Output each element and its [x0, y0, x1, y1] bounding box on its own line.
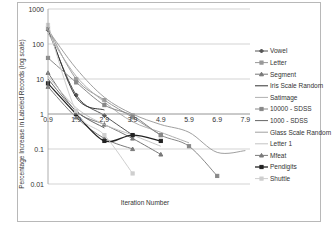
- legend-marker-icon: [260, 107, 263, 110]
- x-tick-label: 0.9: [43, 116, 53, 123]
- data-point-marker: [216, 174, 219, 177]
- legend-label: 10000 - SDSS: [270, 105, 312, 112]
- legend-marker-icon: [260, 177, 263, 180]
- legend-item: Vowel: [255, 47, 288, 54]
- legend-item: Satimage: [255, 94, 298, 102]
- legend-item: Pendigits: [255, 163, 297, 171]
- x-tick-label: 4.9: [156, 116, 166, 123]
- legend-label: Shuttle: [270, 175, 291, 182]
- x-axis-title: Iteration Number: [121, 199, 170, 206]
- legend-label: Letter 1: [270, 140, 292, 147]
- legend-label: Glass Scale Random: [270, 129, 331, 136]
- legend-item: 1000 - SDSS: [255, 117, 309, 124]
- legend-item: Segment: [255, 71, 296, 79]
- series-glass-scale-random: [48, 30, 245, 153]
- legend-label: Letter: [270, 59, 287, 66]
- data-point-marker: [131, 133, 134, 136]
- line-chart: 10001001010.10.010.91.92.93.94.95.96.97.…: [0, 0, 335, 237]
- legend-item: Letter: [255, 59, 287, 66]
- data-point-marker: [75, 110, 78, 113]
- x-tick-label: 7.9: [241, 116, 251, 123]
- data-point-marker: [159, 133, 162, 136]
- legend-marker-icon: [260, 72, 264, 76]
- legend-label: 1000 - SDSS: [270, 117, 309, 124]
- y-tick-label: 100: [32, 41, 44, 48]
- data-point-marker: [187, 145, 190, 148]
- legend-label: Satimage: [270, 94, 298, 102]
- data-point-marker: [131, 172, 134, 175]
- legend-marker-icon: [260, 49, 264, 53]
- series-line: [48, 30, 245, 153]
- data-point-marker: [131, 147, 135, 151]
- legend-item: Letter 1: [255, 140, 292, 147]
- data-point-marker: [103, 103, 106, 106]
- x-tick-label: 3.9: [128, 116, 138, 123]
- legend-item: 10000 - SDSS: [255, 105, 312, 112]
- data-point-marker: [103, 133, 106, 136]
- data-point-marker: [103, 139, 106, 142]
- legend-label: Mfeat: [270, 152, 286, 159]
- legend-label: Vowel: [270, 47, 288, 54]
- x-tick-label: 5.9: [184, 116, 194, 123]
- y-tick-label: 0.01: [30, 181, 44, 188]
- data-point-marker: [159, 152, 163, 156]
- data-point-marker: [159, 139, 162, 142]
- y-tick-label: 10: [36, 76, 44, 83]
- legend-item: Mfeat: [255, 152, 286, 159]
- y-axis-title: Percentage Increase in Labeled Records (…: [18, 39, 26, 189]
- y-tick-label: 1000: [28, 6, 44, 13]
- axes: 10001001010.10.010.91.92.93.94.95.96.97.…: [28, 6, 250, 188]
- legend-item: Iris Scale Random: [255, 82, 323, 89]
- x-tick-label: 1.9: [71, 116, 81, 123]
- gridlines: [48, 9, 250, 184]
- legend-marker-icon: [260, 153, 264, 157]
- legend-label: Segment: [270, 71, 296, 79]
- legend-item: Glass Scale Random: [255, 129, 331, 136]
- x-tick-label: 6.9: [212, 116, 222, 123]
- y-tick-label: 0.1: [34, 146, 44, 153]
- data-point-marker: [75, 81, 78, 84]
- x-tick-label: 2.9: [100, 116, 110, 123]
- series-lines: [46, 23, 245, 177]
- legend: VowelLetterSegmentIris Scale RandomSatim…: [255, 47, 331, 182]
- series-line: [48, 83, 161, 141]
- legend-item: Shuttle: [255, 175, 291, 182]
- legend-label: Pendigits: [270, 163, 297, 171]
- legend-marker-icon: [260, 165, 263, 168]
- legend-marker-icon: [260, 61, 263, 64]
- legend-label: Iris Scale Random: [270, 82, 323, 89]
